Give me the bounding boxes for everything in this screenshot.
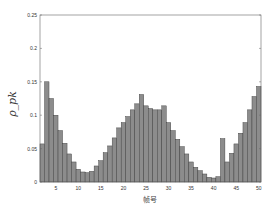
bar xyxy=(130,110,135,182)
bar xyxy=(225,162,230,182)
bar xyxy=(54,115,59,182)
bar xyxy=(207,177,212,182)
x-tick-label: 15 xyxy=(98,185,104,191)
bar xyxy=(117,128,122,182)
x-axis-ticks: 5101520253035404550 xyxy=(54,185,261,191)
bar xyxy=(216,177,221,182)
bar xyxy=(184,154,189,182)
x-tick-label: 35 xyxy=(188,185,194,191)
y-tick-label: 0 xyxy=(34,179,37,185)
bar xyxy=(63,143,68,182)
bar xyxy=(40,144,45,182)
x-tick-label: 20 xyxy=(121,185,127,191)
bar xyxy=(121,123,126,182)
x-axis-label: 帧号 xyxy=(143,195,157,204)
x-tick-label: 50 xyxy=(256,185,262,191)
bar xyxy=(135,104,140,182)
y-tick-label: 0.05 xyxy=(27,146,37,152)
bar xyxy=(112,138,117,182)
bar xyxy=(229,153,234,182)
y-tick-label: 0.25 xyxy=(27,12,37,18)
bar xyxy=(175,139,180,182)
x-tick-label: 30 xyxy=(166,185,172,191)
x-tick-label: 40 xyxy=(211,185,217,191)
y-tick-label: 0.2 xyxy=(30,45,37,51)
y-tick-label: 0.1 xyxy=(30,112,37,118)
bar xyxy=(108,146,113,182)
bar xyxy=(162,106,167,182)
bar-chart: 00.050.10.150.20.25 5101520253035404550 … xyxy=(0,0,271,213)
bar xyxy=(81,172,86,182)
x-tick-label: 5 xyxy=(54,185,57,191)
bar xyxy=(234,144,239,182)
bar xyxy=(85,173,90,182)
x-tick-label: 10 xyxy=(76,185,82,191)
bar xyxy=(202,174,207,182)
bar xyxy=(166,123,171,182)
bar xyxy=(211,178,216,182)
bar xyxy=(90,171,95,182)
bar xyxy=(198,171,203,182)
y-axis-label: ρ_pk xyxy=(6,91,19,118)
bar xyxy=(76,169,81,182)
x-tick-label: 45 xyxy=(233,185,239,191)
bar xyxy=(148,109,153,182)
bar xyxy=(189,162,194,182)
bar xyxy=(99,161,104,182)
bar xyxy=(144,106,149,182)
bar xyxy=(139,94,144,182)
bar xyxy=(238,133,243,182)
bar xyxy=(153,110,158,182)
x-tick-label: 25 xyxy=(143,185,149,191)
bars xyxy=(40,82,261,182)
bar xyxy=(193,167,198,182)
bar xyxy=(72,162,77,182)
bar xyxy=(103,153,108,182)
bar xyxy=(45,82,50,182)
bar xyxy=(247,110,252,182)
bar xyxy=(94,166,99,182)
bar xyxy=(171,131,176,182)
bar xyxy=(243,123,248,182)
bar xyxy=(67,154,72,182)
bar xyxy=(49,99,54,183)
bar xyxy=(58,131,63,182)
bar xyxy=(126,117,131,182)
bar xyxy=(256,86,261,182)
bar xyxy=(180,147,185,182)
bar xyxy=(220,139,225,182)
y-tick-label: 0.15 xyxy=(27,79,37,85)
bar xyxy=(157,110,162,182)
bar xyxy=(252,96,257,182)
